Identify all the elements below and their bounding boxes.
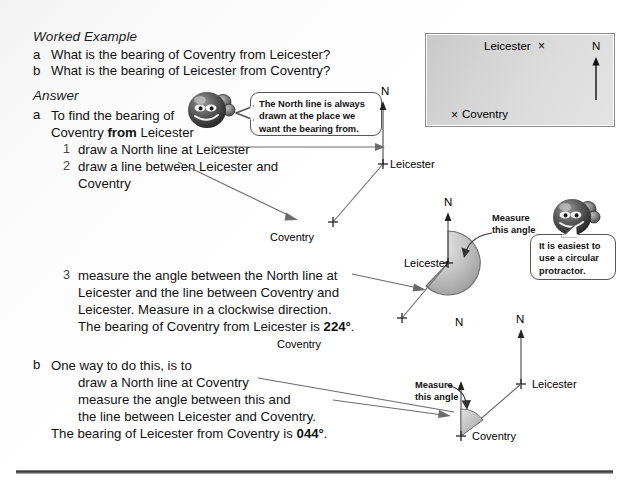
diagram3-north-label-leicester: N (516, 313, 524, 325)
speech-bubble-protractor: It is easiest to use a circular protract… (530, 234, 616, 280)
answer-a-line2-pre: Coventry (51, 125, 107, 140)
page-title: Worked Example (33, 29, 137, 44)
pointer-arrow-step1 (213, 140, 388, 154)
step-2-text-wrap: Coventry (78, 175, 131, 193)
map-leicester-cross-icon: × (538, 39, 545, 53)
diagram3-leicester-label: Leicester (532, 378, 577, 390)
step-1-number: 1 (63, 142, 70, 156)
diagram2-measure-line-1: Measure (492, 213, 535, 225)
bubble1-line3-pre: want the bearing (259, 124, 335, 134)
map-north-arrow-icon (589, 56, 607, 100)
answer-a-line-1: To find the bearing of (51, 107, 174, 125)
pointer-arrow-step3 (352, 272, 430, 294)
footer-divider (16, 470, 613, 474)
answer-a-line-2: Coventry from Leicester (51, 124, 194, 142)
bubble2-line-3: protractor. (539, 265, 607, 277)
speech-bubble-protractor-tail-icon (560, 224, 582, 238)
step-2-number: 2 (63, 159, 70, 173)
diagram3-coventry-label: Coventry (472, 430, 516, 442)
diagram2-leicester-label: Leicester (404, 257, 449, 269)
answer-heading: Answer (33, 88, 79, 103)
bubble2-line-2: use a circular (539, 252, 607, 264)
bearing-b-sentence: The bearing of Leicester from Coventry i… (51, 426, 297, 441)
answer-b-line-5: The bearing of Leicester from Coventry i… (51, 425, 328, 443)
step-3-line-3: Leicester. Measure in a clockwise direct… (78, 301, 332, 319)
step-3-number: 3 (63, 268, 70, 282)
worked-example-page: Worked Example a What is the bearing of … (0, 0, 625, 488)
pointer-arrow-step2 (178, 160, 308, 226)
answer-a-line2-bold: from (107, 125, 136, 140)
diagram2-measure-caption: Measure this angle (492, 213, 535, 236)
bearing-b-period: . (324, 426, 328, 441)
map-coventry-label: Coventry (462, 108, 508, 120)
pointer-arrow-answer-b-2 (333, 398, 461, 422)
answer-marker-a: a (33, 107, 40, 122)
bubble2-line-1: It is easiest to (539, 240, 607, 252)
speech-bubble-north-line-tail-icon (232, 104, 254, 122)
bearing-b-value: 044° (297, 426, 324, 441)
bearing-a-value: 224° (324, 319, 351, 334)
answer-b-line-1: One way to do this, is to (51, 357, 192, 375)
step-3-line-2: Leicester and the line between Coventry … (78, 284, 339, 302)
bearing-a-sentence: The bearing of Coventry from Leicester i… (78, 319, 324, 334)
question-marker-b: b (33, 63, 40, 78)
bearing-a-period: . (351, 319, 355, 334)
step-3-line-1: measure the angle between the North line… (78, 267, 338, 285)
answer-marker-b: b (33, 357, 40, 372)
question-text-b: What is the bearing of Leicester from Co… (51, 63, 330, 78)
question-text-a: What is the bearing of Coventry from Lei… (51, 47, 330, 62)
diagram1-coventry-label: Coventry (270, 231, 314, 243)
diagram2-north-label: N (444, 196, 452, 208)
question-marker-a: a (33, 47, 40, 62)
diagram2-measure-line-2: this angle (492, 225, 535, 237)
diagram3-north-label-coventry: N (455, 316, 463, 328)
diagram2-coventry-label: Coventry (277, 338, 321, 350)
map-leicester-label: Leicester (484, 40, 531, 52)
diagram1-north-label: N (381, 85, 389, 97)
map-north-label: N (592, 40, 600, 52)
answer-b-line-2: draw a North line at Coventry (78, 374, 249, 392)
diagram1-leicester-label: Leicester (390, 158, 435, 170)
step-3-line-4: The bearing of Coventry from Leicester i… (78, 318, 355, 336)
